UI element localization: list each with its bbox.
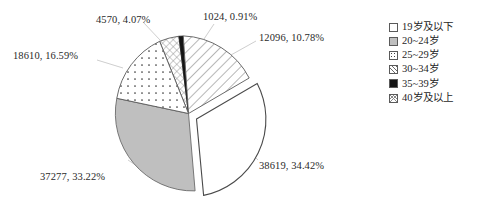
legend-item-30-34[interactable]: 30~34岁: [389, 63, 475, 77]
gray-swatch: [389, 37, 398, 46]
legend-label: 40岁及以上: [402, 93, 453, 104]
data-label-20-24: 37277, 33.22%: [40, 172, 105, 183]
legend-item-35-39[interactable]: 35~39岁: [389, 77, 475, 91]
legend-item-40plus[interactable]: 40岁及以上: [389, 91, 475, 105]
data-label-25-29: 18610, 16.59%: [13, 51, 78, 62]
data-label-19-and-under: 38619, 34.42%: [259, 161, 324, 172]
data-label-40plus: 4570, 4.07%: [96, 15, 150, 26]
legend-label: 19岁及以下: [402, 22, 453, 33]
dotted-swatch: [389, 51, 398, 60]
legend-item-20-24[interactable]: 20~24岁: [389, 34, 475, 48]
legend-label: 35~39岁: [402, 79, 439, 90]
legend-label: 25~29岁: [402, 50, 439, 61]
black-swatch: [389, 79, 398, 88]
chart-legend: 19岁及以下 20~24岁 25~29岁 30~34岁 35~39岁 40岁及以…: [389, 20, 475, 105]
crosshatch-swatch: [389, 94, 398, 103]
diagonal-hatch-swatch: [389, 65, 398, 74]
legend-item-25-29[interactable]: 25~29岁: [389, 48, 475, 62]
legend-label: 20~24岁: [402, 36, 439, 47]
legend-item-19-and-under[interactable]: 19岁及以下: [389, 20, 475, 34]
legend-label: 30~34岁: [402, 64, 439, 75]
pie-chart-figure: 4570, 4.07% 1024, 0.91% 12096, 10.78% 18…: [0, 0, 478, 213]
data-label-30-34: 12096, 10.78%: [259, 33, 324, 44]
white-swatch: [389, 23, 398, 32]
data-label-35-39: 1024, 0.91%: [203, 12, 257, 23]
